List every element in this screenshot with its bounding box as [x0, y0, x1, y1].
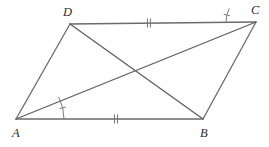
side-CD [70, 22, 256, 24]
diagonals-group [16, 22, 256, 119]
angle-arcs-group [59, 8, 230, 119]
vertex-label-C: C [251, 3, 260, 17]
geometry-figure: ABCD [0, 0, 269, 147]
vertex-label-B: B [200, 126, 208, 140]
vertex-label-D: D [62, 5, 72, 19]
diagonal-BD [70, 24, 203, 119]
vertex-label-A: A [11, 126, 20, 140]
parallelogram-diagram: ABCD [0, 0, 269, 147]
tick-marks-group [115, 19, 151, 124]
side-BC [203, 22, 256, 119]
